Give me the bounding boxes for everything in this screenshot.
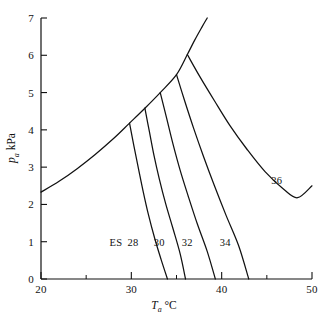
y-tick-label: 0: [20, 273, 34, 285]
y-axis-title: pa kPa: [5, 133, 20, 163]
curve-ES: [41, 18, 207, 192]
plot-canvas: [0, 0, 328, 320]
curve-label: ES: [110, 236, 123, 247]
x-tick-label: 50: [306, 283, 317, 295]
y-tick-label: 1: [20, 236, 34, 248]
y-axis-title-variable: p: [5, 157, 17, 163]
chart-figure: 01234567 20304050 ES2830323436 Ta °C pa …: [0, 0, 328, 320]
curve-32: [160, 93, 215, 279]
y-tick-label: 3: [20, 161, 34, 173]
x-tick-label: 40: [216, 283, 227, 295]
x-axis-title-unit: °C: [165, 299, 177, 311]
curve-28: [130, 123, 168, 279]
curve-label: 34: [220, 236, 231, 247]
y-tick-label: 2: [20, 198, 34, 210]
y-tick-label: 4: [20, 124, 34, 136]
y-tick-label: 6: [20, 49, 34, 61]
curve-label: 36: [271, 174, 282, 185]
curve-label: 30: [154, 236, 165, 247]
y-tick-label: 7: [20, 12, 34, 24]
y-axis-title-unit: kPa: [5, 133, 17, 150]
y-axis-title-subscript: a: [12, 153, 21, 157]
curve-label: 32: [182, 236, 193, 247]
curve-36: [187, 55, 312, 198]
data-curves: [41, 18, 312, 279]
curve-34: [177, 75, 249, 279]
y-tick-label: 5: [20, 87, 34, 99]
x-axis-title: Ta °C: [151, 299, 177, 314]
x-axis-title-subscript: a: [158, 305, 162, 314]
x-tick-label: 20: [35, 283, 46, 295]
curve-30: [145, 108, 186, 279]
y-axis-ticks: [41, 18, 47, 279]
curve-label: 28: [128, 236, 139, 247]
x-tick-label: 30: [126, 283, 137, 295]
